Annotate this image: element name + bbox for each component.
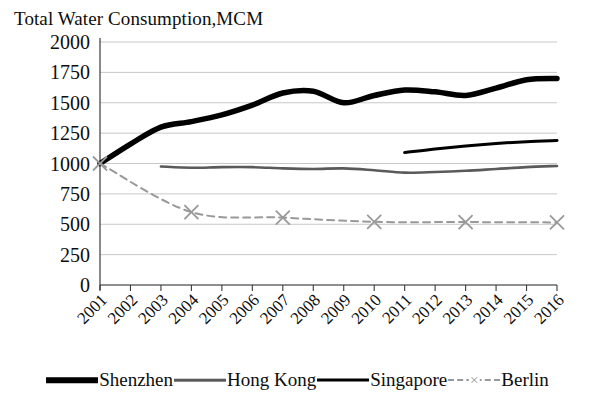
legend-line-sample	[317, 379, 369, 382]
x-axis-tick-label: 2015	[500, 290, 537, 327]
x-axis-tick-label: 2005	[195, 290, 232, 327]
x-axis-tick-label: 2008	[287, 290, 324, 327]
x-axis-tick-label: 2016	[530, 290, 567, 327]
legend-x-marker-icon: ×	[469, 373, 479, 388]
series-marker-berlin	[184, 205, 198, 219]
legend-label: Singapore	[369, 369, 448, 391]
x-axis-tick-label: 2002	[104, 290, 141, 327]
legend-swatch-icon	[46, 372, 98, 388]
x-axis-tick-label: 2003	[134, 290, 171, 327]
legend-entry-hong-kong[interactable]: Hong Kong	[174, 369, 317, 391]
legend-entry-shenzhen[interactable]: Shenzhen	[46, 369, 174, 391]
y-axis-tick-label: 0	[80, 274, 90, 296]
y-axis-tick-label: 500	[60, 213, 90, 235]
legend-entry-berlin[interactable]: ×Berlin	[448, 369, 550, 391]
legend-entry-singapore[interactable]: Singapore	[317, 369, 448, 391]
x-axis-tick-label: 2009	[317, 290, 354, 327]
x-axis-tick-label: 2011	[378, 290, 415, 327]
series-line-hong-kong	[161, 166, 557, 173]
legend-label: Shenzhen	[98, 369, 174, 391]
x-axis-tick-label: 2007	[256, 290, 294, 328]
y-axis-tick-label: 1500	[50, 92, 90, 114]
legend-line-sample	[46, 377, 98, 383]
x-axis-tick-label: 2004	[165, 290, 203, 328]
y-axis-tick-label: 250	[60, 244, 90, 266]
series-marker-berlin	[550, 215, 564, 229]
series-line-shenzhen	[100, 78, 557, 163]
y-axis-tick-label: 1750	[50, 61, 90, 83]
y-axis-tick-label: 1250	[50, 122, 90, 144]
x-axis-tick-label: 2012	[408, 290, 445, 327]
series-line-singapore	[405, 140, 557, 152]
x-axis-tick-label: 2001	[73, 290, 110, 327]
legend-swatch-icon	[174, 372, 226, 388]
legend-label: Berlin	[500, 369, 550, 391]
x-axis-tick-label: 2013	[439, 290, 476, 327]
x-axis-tick-label: 2010	[348, 290, 385, 327]
legend-line-sample	[174, 379, 226, 382]
legend-swatch-icon	[317, 372, 369, 388]
series-marker-berlin	[276, 211, 290, 225]
x-axis-tick-label: 2006	[226, 290, 263, 327]
legend-label: Hong Kong	[226, 369, 317, 391]
chart-legend: ShenzhenHong KongSingapore×Berlin	[0, 360, 596, 400]
y-axis-tick-label: 2000	[50, 31, 90, 53]
water-consumption-chart: Total Water Consumption,MCM 025050075010…	[0, 0, 596, 405]
series-line-berlin	[100, 164, 557, 223]
y-axis-tick-label: 750	[60, 183, 90, 205]
chart-plot-area: 0250500750100012501500175020002001200220…	[0, 0, 596, 360]
y-axis-tick-label: 1000	[50, 153, 90, 175]
legend-swatch-icon: ×	[448, 372, 500, 388]
x-axis-tick-label: 2014	[469, 290, 507, 328]
